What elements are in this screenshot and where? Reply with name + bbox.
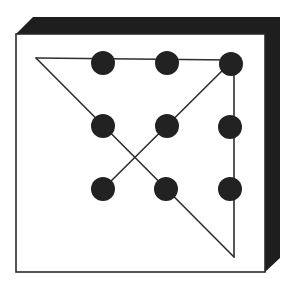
nine-dots-diagram: [0, 0, 294, 285]
dot-r3-c2: [154, 177, 178, 201]
dot-r2-c1: [91, 114, 115, 138]
dot-r1-c1: [91, 51, 115, 75]
dot-r1-c2: [155, 51, 179, 75]
dot-r2-c3: [218, 115, 242, 139]
dot-r3-c1: [91, 177, 115, 201]
dot-r1-c3: [219, 52, 243, 76]
dot-r3-c3: [218, 177, 242, 201]
dot-r2-c2: [155, 114, 179, 138]
nine-dots-figure: [0, 0, 294, 285]
